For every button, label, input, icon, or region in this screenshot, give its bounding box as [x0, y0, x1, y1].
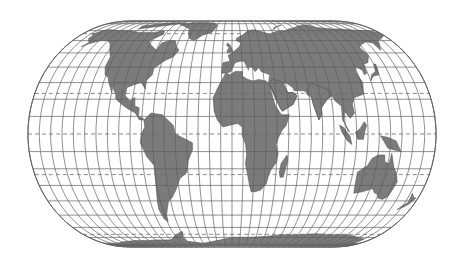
map-canvas — [0, 0, 463, 268]
world-map: World map — Eckert IV projection with gr… — [0, 0, 463, 268]
